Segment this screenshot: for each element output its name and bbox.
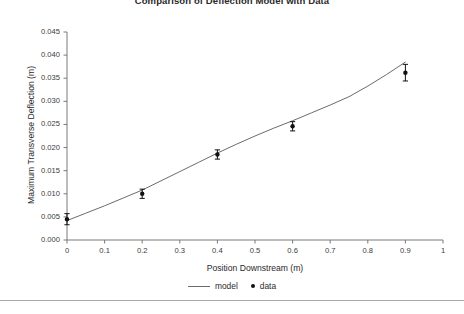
- x-axis-tick-label: 0.4: [205, 246, 229, 255]
- legend-item-data[interactable]: data: [251, 281, 276, 291]
- data-point-marker: [290, 124, 294, 128]
- x-axis-tick-label: 0.8: [356, 246, 380, 255]
- x-axis-tick-label: 0.6: [281, 246, 305, 255]
- data-point-marker: [140, 192, 144, 196]
- x-axis-tick-label: 0.5: [243, 246, 267, 255]
- x-axis-tick-label: 0.1: [93, 246, 117, 255]
- x-axis-label: Position Downstream (m): [67, 263, 443, 273]
- y-axis-tick-label: 0.025: [30, 119, 60, 128]
- x-axis-tick-label: 0.7: [318, 246, 342, 255]
- chart-legend: model data: [0, 281, 464, 291]
- x-axis-tick-label: 0.9: [393, 246, 417, 255]
- data-point-marker: [403, 70, 407, 74]
- x-axis-tick-label: 0.2: [130, 246, 154, 255]
- chart-figure: Comparison of Deflection Model with Data…: [0, 0, 464, 314]
- legend-item-model[interactable]: model: [188, 281, 238, 291]
- y-axis-tick-label: 0.035: [30, 73, 60, 82]
- data-point-marker: [215, 152, 219, 156]
- line-swatch-icon: [188, 286, 210, 287]
- data-point-marker: [65, 217, 69, 221]
- y-axis-tick-label: 0.010: [30, 189, 60, 198]
- legend-label-model: model: [215, 281, 238, 291]
- bottom-divider: [0, 300, 464, 301]
- legend-label-data: data: [260, 281, 276, 291]
- y-axis-tick-label: 0.030: [30, 96, 60, 105]
- y-axis-label: Maximum Transverse Deflection (m): [26, 40, 36, 230]
- y-axis-tick-label: 0.040: [30, 50, 60, 59]
- dot-swatch-icon: [251, 284, 255, 288]
- x-axis-tick-label: 1: [431, 246, 455, 255]
- y-axis-tick-label: 0.045: [30, 27, 60, 36]
- y-axis-tick-label: 0.000: [30, 235, 60, 244]
- y-axis-tick-label: 0.015: [30, 166, 60, 175]
- x-axis-tick-label: 0.3: [168, 246, 192, 255]
- x-axis-tick-label: 0: [55, 246, 79, 255]
- model-line: [67, 62, 405, 221]
- y-axis-tick-label: 0.020: [30, 143, 60, 152]
- y-axis-tick-label: 0.005: [30, 212, 60, 221]
